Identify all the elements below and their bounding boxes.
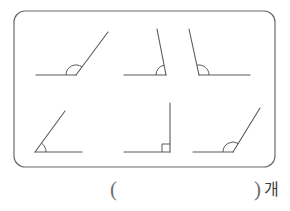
angle-1-ray-b	[76, 32, 108, 75]
angle-5-right-angle-marker	[162, 144, 170, 152]
angle-figures-svg	[0, 0, 290, 211]
angle-2-arc-marker	[156, 65, 164, 75]
figure-frame	[14, 11, 275, 167]
obtuse-angle-opening-right	[36, 32, 108, 75]
right-angle	[124, 103, 170, 152]
angle-6-ray-b	[233, 108, 260, 152]
acute-angle-opening-right	[35, 111, 82, 152]
worksheet-page: ( ) 개	[0, 0, 290, 211]
angle-3-ray-b	[189, 29, 199, 75]
obtuse-angle-steep-right	[124, 29, 166, 75]
angle-4-ray-b	[35, 111, 65, 152]
obtuse-angle-opening-right-wide	[193, 108, 260, 152]
angle-4-arc-marker	[41, 143, 46, 152]
obtuse-angle-opening-left	[189, 29, 250, 75]
angle-figures-group	[35, 29, 260, 152]
